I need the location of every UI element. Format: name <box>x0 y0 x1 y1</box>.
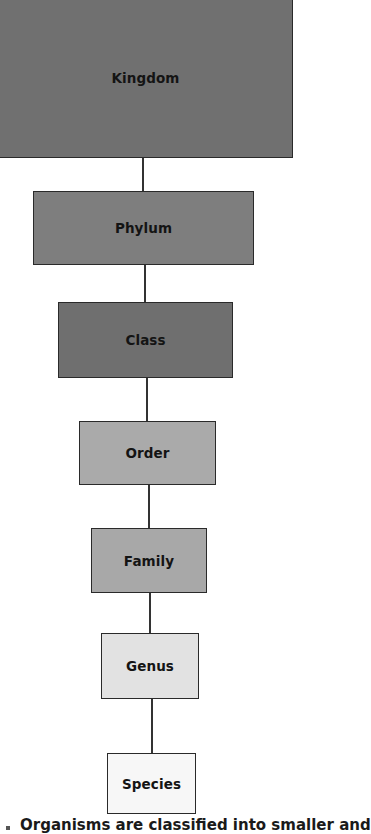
connector-line <box>151 699 153 753</box>
level-label: Species <box>122 776 181 792</box>
level-class-box: Class <box>58 302 233 378</box>
level-species-box: Species <box>107 753 196 814</box>
level-label: Order <box>125 445 169 461</box>
level-label: Family <box>124 553 174 569</box>
level-label: Kingdom <box>111 70 179 86</box>
caption-marker-icon <box>6 826 10 830</box>
connector-line <box>146 378 148 421</box>
level-phylum-box: Phylum <box>33 191 254 265</box>
level-order-box: Order <box>79 421 216 485</box>
connector-line <box>149 593 151 633</box>
connector-line <box>144 265 146 302</box>
connector-line <box>148 485 150 528</box>
level-family-box: Family <box>91 528 207 593</box>
level-label: Class <box>125 332 165 348</box>
connector-line <box>142 158 144 191</box>
caption-text: Organisms are classified into smaller an… <box>20 816 371 834</box>
level-label: Phylum <box>115 220 172 236</box>
level-kingdom-box: Kingdom <box>0 0 293 158</box>
figure-caption: Organisms are classified into smaller an… <box>6 816 371 834</box>
level-label: Genus <box>126 658 174 674</box>
level-genus-box: Genus <box>101 633 199 699</box>
